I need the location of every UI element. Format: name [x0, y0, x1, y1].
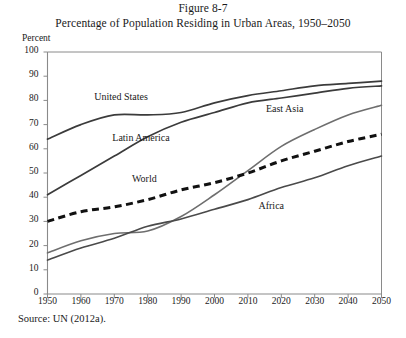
series-label-africa: Africa	[258, 200, 284, 211]
y-tick-label: 40	[15, 190, 39, 200]
x-tick-label: 1960	[64, 296, 98, 306]
x-tick-label: 2000	[198, 296, 232, 306]
y-tick-label: 30	[15, 214, 39, 224]
series-label-latin-america: Latin America	[112, 132, 169, 143]
chart-plot-area: 0102030405060708090100 United StatesLati…	[0, 44, 406, 306]
series-label-united-states: United States	[94, 91, 148, 102]
x-tick-label: 2030	[298, 296, 332, 306]
y-tick-label: 70	[15, 118, 39, 128]
y-tick-label: 90	[15, 69, 39, 79]
y-tick-label: 60	[15, 142, 39, 152]
x-tick-label: 2050	[365, 296, 399, 306]
chart-axes	[44, 52, 382, 298]
x-tick-label: 1970	[97, 296, 131, 306]
series-line-east-asia	[48, 105, 382, 253]
chart-series	[48, 81, 382, 260]
figure-title: Percentage of Population Residing in Urb…	[0, 17, 406, 29]
x-tick-label: 2010	[231, 296, 265, 306]
axis-frame	[48, 52, 382, 294]
y-tick-label: 50	[15, 166, 39, 176]
y-tick-label: 20	[15, 239, 39, 249]
figure-number: Figure 8-7	[0, 2, 406, 14]
x-tick-label: 1950	[31, 296, 65, 306]
series-line-world	[48, 134, 382, 221]
x-tick-label: 1990	[164, 296, 198, 306]
figure-container: Figure 8-7 Percentage of Population Resi…	[0, 0, 406, 338]
y-tick-label: 10	[15, 263, 39, 273]
y-tick-label: 80	[15, 93, 39, 103]
x-tick-label: 2020	[264, 296, 298, 306]
line-chart-svg	[0, 44, 406, 306]
series-label-east-asia: East Asia	[266, 103, 304, 114]
x-tick-label: 2040	[331, 296, 365, 306]
figure-source: Source: UN (2012a).	[18, 313, 106, 324]
x-tick-label: 1980	[131, 296, 165, 306]
series-label-world: World	[132, 173, 157, 184]
y-axis-unit-label: Percent	[22, 33, 51, 43]
y-tick-label: 100	[15, 45, 39, 55]
